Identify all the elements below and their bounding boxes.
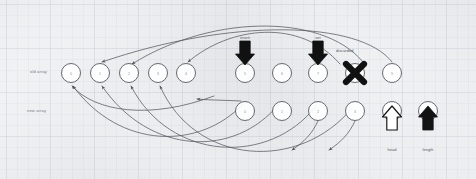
- row-top-label: old array: [30, 69, 47, 74]
- edge-arc: [329, 121, 355, 150]
- node-glyph: 0: [244, 110, 246, 114]
- edge-arc: [292, 121, 318, 150]
- node-glyph: 3: [354, 110, 356, 114]
- arrow-down-1-icon: [236, 41, 255, 65]
- node-glyph: 9: [391, 72, 393, 76]
- node-glyph: 7: [317, 72, 319, 76]
- arrow-down-2-icon: [309, 41, 328, 65]
- node-glyph: 1: [281, 110, 283, 114]
- node-glyph: 2: [317, 110, 319, 114]
- arrow-down-2-label: set: [296, 36, 340, 40]
- arrow-down-1-label: insert: [223, 36, 267, 40]
- block-arrow-layer: [236, 41, 438, 130]
- node-glyph: 1: [99, 72, 101, 76]
- node-glyph: 3: [157, 72, 159, 76]
- edge-layer: [72, 26, 392, 152]
- node-glyph: 5: [244, 72, 246, 76]
- diagram-canvas: 0123456789 012345 insertsetheadlengthold…: [0, 0, 476, 179]
- node-glyph: 4: [185, 72, 187, 76]
- arrow-up-2-label: length: [406, 148, 450, 152]
- x-annotation: discarded: [336, 49, 353, 53]
- edge-arc: [73, 86, 243, 137]
- edge-arc: [72, 86, 214, 110]
- row-bottom-label: new array: [27, 108, 46, 113]
- node-glyph: 2: [128, 72, 130, 76]
- diagram-artwork: 0123456789 012345: [0, 0, 476, 179]
- node-glyph: 0: [70, 72, 72, 76]
- node-glyph: 6: [281, 72, 283, 76]
